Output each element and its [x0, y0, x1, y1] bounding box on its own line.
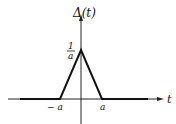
right-tick-label: a — [100, 102, 105, 112]
triangle-pulse-diagram: Δ(t) t 1 a − a a — [0, 0, 176, 124]
x-axis-label: t — [167, 93, 172, 106]
peak-label-numerator: 1 — [68, 41, 74, 51]
function-curve — [20, 50, 148, 99]
function-label: Δ(t) — [72, 6, 96, 20]
x-axis-arrow-icon — [157, 97, 164, 101]
peak-label-denominator: a — [68, 51, 73, 61]
left-tick-label: − a — [47, 102, 63, 112]
